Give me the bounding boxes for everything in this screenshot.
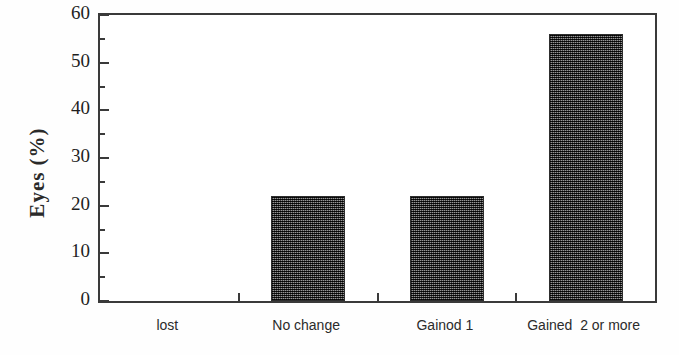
x-axis-tick bbox=[515, 293, 517, 301]
y-axis-tick-label: 10 bbox=[48, 241, 90, 260]
x-axis-tick bbox=[238, 293, 240, 301]
y-axis-minor-tick bbox=[100, 86, 105, 88]
y-axis-minor-tick bbox=[100, 181, 105, 183]
plot-area bbox=[98, 13, 657, 303]
bar bbox=[410, 196, 484, 301]
y-axis-major-tick bbox=[100, 62, 109, 64]
bar bbox=[549, 34, 623, 301]
x-axis-tick-label: lost bbox=[98, 318, 237, 333]
y-axis-major-tick bbox=[100, 14, 109, 16]
y-axis-tick-label: 30 bbox=[48, 146, 90, 165]
plot-inner bbox=[100, 15, 655, 301]
y-axis-tick-label: 60 bbox=[48, 3, 90, 22]
y-axis-minor-tick bbox=[100, 133, 105, 135]
y-axis-tick-label: 0 bbox=[48, 289, 90, 308]
x-axis-tick-label: Gained 2 or more bbox=[514, 318, 653, 333]
x-axis-tick bbox=[377, 293, 379, 301]
y-axis-tick-label: 50 bbox=[48, 51, 90, 70]
y-axis-major-tick bbox=[100, 300, 109, 302]
bar bbox=[271, 196, 345, 301]
y-axis-tick-label: 20 bbox=[48, 194, 90, 213]
y-axis-minor-tick bbox=[100, 38, 105, 40]
y-axis-major-tick bbox=[100, 205, 109, 207]
x-axis-tick-label: Gainod 1 bbox=[376, 318, 515, 333]
x-axis-tick-labels: lostNo changeGainod 1Gained 2 or more bbox=[98, 318, 657, 348]
bar-chart-figure: Eyes (%) 0102030405060 lostNo changeGain… bbox=[0, 0, 679, 355]
y-axis-major-tick bbox=[100, 157, 109, 159]
x-axis-tick-label: No change bbox=[237, 318, 376, 333]
y-axis-major-tick bbox=[100, 109, 109, 111]
y-axis-tick-labels: 0102030405060 bbox=[42, 0, 90, 355]
y-axis-tick-label: 40 bbox=[48, 98, 90, 117]
y-axis-major-tick bbox=[100, 252, 109, 254]
y-axis-minor-tick bbox=[100, 276, 105, 278]
y-axis-minor-tick bbox=[100, 229, 105, 231]
